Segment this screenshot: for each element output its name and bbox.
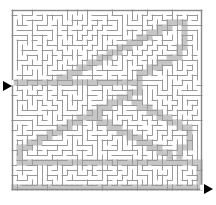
maze-exit-arrow-icon (204, 184, 213, 194)
maze-figure (0, 0, 216, 205)
maze-grid (0, 0, 216, 205)
maze-entrance-arrow-icon (3, 81, 12, 91)
